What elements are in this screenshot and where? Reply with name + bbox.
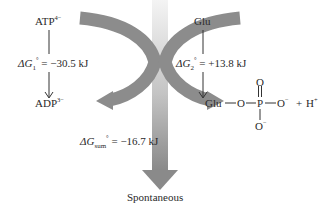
dg1-value: = −30.5 kJ xyxy=(41,57,88,69)
o-right-text: O xyxy=(277,97,285,109)
product-glu: Glu xyxy=(205,98,222,109)
dgsum-value: = −16.7 kJ xyxy=(111,135,158,147)
dgsum-symbol: ΔG xyxy=(80,135,94,147)
product-phosphorus: P xyxy=(257,98,263,109)
product-o-top: O xyxy=(256,77,264,88)
dgsum-superscript: ° xyxy=(106,134,109,141)
dg1-label: ΔG1° = −30.5 kJ xyxy=(18,58,88,72)
o-right-charge: − xyxy=(285,96,289,103)
dg1-subscript: 1 xyxy=(32,64,36,72)
dg2-superscript: ° xyxy=(194,56,197,63)
left-coupling-arc-arrow xyxy=(80,18,155,110)
glu-text: Glu xyxy=(194,15,211,27)
dg2-value: = +13.8 kJ xyxy=(199,57,246,69)
product-o-right: O− xyxy=(277,98,289,109)
o-bottom-charge: − xyxy=(263,119,267,126)
atp-text: ATP xyxy=(35,15,55,27)
adp-label: ADP3− xyxy=(35,98,64,109)
proton-charge: + xyxy=(314,96,318,103)
product-plus: + xyxy=(296,98,302,109)
adp-text: ADP xyxy=(35,97,57,109)
glu-label: Glu xyxy=(194,16,211,27)
proton-text: H xyxy=(306,97,314,109)
product-o-bridge: O xyxy=(237,98,245,109)
product-proton: H+ xyxy=(306,98,318,109)
spontaneous-label: Spontaneous xyxy=(127,192,183,203)
spontaneous-down-arrow xyxy=(142,0,178,190)
dg1-superscript: ° xyxy=(36,56,39,63)
dg2-label: ΔG2° = +13.8 kJ xyxy=(176,58,246,72)
product-o-bottom: O− xyxy=(255,121,267,132)
dgsum-subscript: sum xyxy=(94,142,106,150)
dg2-symbol: ΔG xyxy=(176,57,190,69)
dg2-subscript: 2 xyxy=(190,64,194,72)
atp-label: ATP4− xyxy=(35,16,61,27)
dg-sum-label: ΔGsum° = −16.7 kJ xyxy=(80,136,158,150)
phosphate-bonds xyxy=(225,86,276,120)
o-bottom-text: O xyxy=(255,120,263,132)
adp-charge: 3− xyxy=(57,96,64,103)
atp-charge: 4− xyxy=(55,14,62,21)
dg1-symbol: ΔG xyxy=(18,57,32,69)
